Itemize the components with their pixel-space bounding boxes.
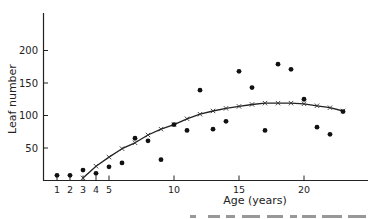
data-point bbox=[237, 69, 242, 74]
data-point bbox=[328, 132, 333, 137]
data-point bbox=[263, 128, 268, 133]
x-tick-label: 4 bbox=[93, 184, 99, 195]
x-tick-label: 2 bbox=[67, 184, 73, 195]
data-point bbox=[276, 62, 281, 67]
x-tick-label: 3 bbox=[80, 184, 86, 195]
data-point bbox=[341, 109, 346, 114]
fitted-curve bbox=[83, 103, 343, 178]
data-point bbox=[159, 157, 164, 162]
data-point bbox=[94, 171, 99, 176]
data-point bbox=[250, 85, 255, 90]
y-tick-label: 200 bbox=[19, 45, 38, 56]
leaf-number-chart: 50100150200 12345101520 Leaf number Age … bbox=[0, 0, 373, 219]
data-point bbox=[81, 168, 86, 173]
y-tick-label: 100 bbox=[19, 110, 38, 121]
x-marker-icon bbox=[107, 155, 111, 159]
data-point bbox=[107, 164, 112, 169]
cropped-caption-text bbox=[150, 212, 373, 219]
x-tick-label: 20 bbox=[298, 184, 310, 195]
x-marker-icon bbox=[94, 164, 98, 168]
data-point bbox=[146, 138, 151, 143]
y-tick-label: 150 bbox=[19, 78, 38, 89]
observed-points bbox=[55, 62, 346, 178]
axes bbox=[43, 13, 368, 181]
data-point bbox=[133, 136, 138, 141]
data-point bbox=[224, 119, 229, 124]
data-point bbox=[289, 67, 294, 72]
data-point bbox=[198, 88, 203, 93]
x-ticks: 12345101520 bbox=[54, 176, 310, 196]
data-point bbox=[120, 161, 125, 166]
x-axis-label: Age (years) bbox=[223, 194, 287, 207]
data-point bbox=[315, 125, 320, 130]
data-point bbox=[172, 122, 177, 127]
y-axis-label: Leaf number bbox=[6, 64, 19, 134]
data-point bbox=[185, 128, 190, 133]
fitted-line bbox=[83, 103, 343, 178]
data-point bbox=[211, 127, 216, 132]
data-point bbox=[55, 173, 60, 178]
x-tick-label: 1 bbox=[54, 184, 60, 195]
x-tick-label: 10 bbox=[168, 184, 180, 195]
data-point bbox=[68, 173, 73, 178]
data-point bbox=[302, 97, 307, 102]
fitted-curve-markers bbox=[81, 101, 345, 180]
y-tick-label: 50 bbox=[25, 143, 38, 154]
x-tick-label: 5 bbox=[106, 184, 112, 195]
